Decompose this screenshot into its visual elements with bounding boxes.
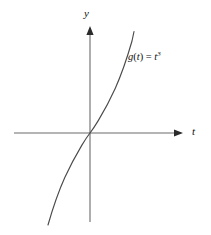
- curve-equation-label: g(t) = t3: [128, 52, 161, 63]
- curve-label-expression-exponent: 3: [157, 50, 161, 58]
- figure-background: [0, 0, 211, 235]
- cubic-function-graph: [0, 0, 211, 235]
- t-axis-label: t: [192, 126, 195, 137]
- curve-label-equals: =: [143, 51, 154, 62]
- y-axis-label: y: [84, 8, 89, 19]
